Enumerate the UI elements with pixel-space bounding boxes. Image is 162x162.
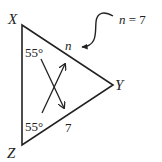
angle-label-z: 55° (25, 119, 43, 134)
callout-text: n = 7 (119, 12, 146, 27)
callout-value: = 7 (126, 12, 147, 27)
arrow-up-right (42, 64, 65, 113)
callout-arrow (82, 13, 113, 47)
vertex-label-y: Y (115, 77, 125, 93)
side-label-xy: n (65, 38, 72, 53)
vertex-label-z: Z (7, 145, 16, 161)
vertex-label-x: X (7, 11, 18, 27)
angle-label-x: 55° (25, 45, 43, 60)
arrow-down-right (41, 59, 64, 108)
side-label-zy: 7 (65, 120, 72, 135)
triangle-diagram: X Y Z 55° 55° n 7 n = 7 (0, 0, 162, 162)
